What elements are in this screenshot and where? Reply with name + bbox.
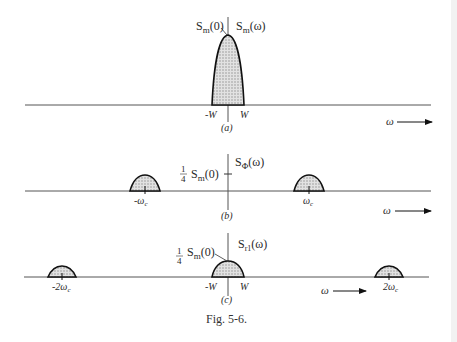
panel-b-wc-label: ωc: [303, 195, 314, 208]
panel-c-peak-leader: [215, 254, 227, 261]
panel-b-label: (b): [221, 210, 233, 222]
panel-c-level-value: Sm(0): [187, 245, 215, 261]
panel-a: Sm(0) Sm(ω) -W W (a) ω: [25, 17, 432, 134]
panel-b-level-label: 1 4: [181, 162, 188, 184]
panel-a-baseband-spectrum: [212, 35, 244, 105]
panel-c-label: (c): [221, 294, 233, 306]
panel-c-w-tick: W: [240, 281, 250, 292]
panel-c-2wc-label: 2ωc: [383, 281, 399, 294]
panel-c-neg-w-tick: -W: [205, 281, 218, 292]
panel-a-peak-label: Sm(0): [196, 19, 224, 35]
panel-a-w-tick: W: [240, 109, 250, 120]
panel-b-level-value: Sm(0): [191, 167, 219, 183]
panel-c-neg-2wc-label: -2ωc: [52, 281, 71, 294]
panel-c: 1 4 Sm(0) Sr1(ω) -2ωc 2ωc -W W (c) ω: [24, 233, 429, 306]
page-edge-shadow: [451, 0, 457, 342]
figure-caption: Fig. 5-6.: [206, 312, 247, 326]
panel-b: 1 4 Sm(0) SΦ(ω) -ωc ωc (b) ω: [25, 154, 431, 222]
panel-c-omega-label: ω: [321, 284, 329, 296]
panel-a-label: (a): [221, 122, 233, 134]
panel-b-neg-wc-label: -ωc: [134, 195, 148, 208]
panel-c-baseband-lobe: [212, 261, 244, 277]
panel-c-function-label: Sr1(ω): [238, 237, 267, 253]
panel-b-function-label: SΦ(ω): [235, 155, 264, 171]
spectrum-figure: Sm(0) Sm(ω) -W W (a) ω 1 4 Sm(0) SΦ(ω): [0, 0, 457, 342]
panel-a-neg-w-tick: -W: [205, 109, 218, 120]
panel-a-omega-label: ω: [386, 115, 394, 127]
panel-a-function-label: Sm(ω): [236, 19, 266, 35]
panel-b-omega-label: ω: [383, 204, 391, 216]
